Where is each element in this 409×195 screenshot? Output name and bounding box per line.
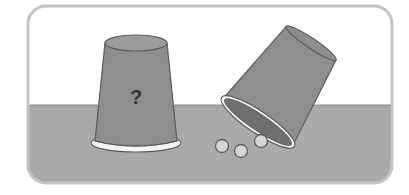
marble — [235, 145, 248, 158]
picture-frame — [28, 6, 392, 185]
wall — [28, 6, 392, 106]
table-surface — [28, 105, 392, 185]
illustration-canvas: ? — [0, 0, 409, 195]
upright-cup: ? — [91, 35, 181, 152]
cups-illustration: ? — [0, 0, 409, 195]
question-mark-label: ? — [130, 86, 142, 108]
marble — [255, 135, 268, 148]
marble — [216, 140, 229, 153]
